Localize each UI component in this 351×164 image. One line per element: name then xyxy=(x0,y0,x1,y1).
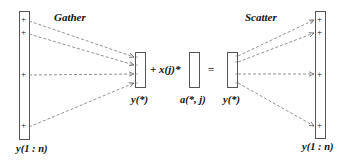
plus-marker: + xyxy=(21,28,26,37)
diagram-graphics xyxy=(0,0,351,164)
gather-arrows xyxy=(29,21,134,127)
gather-scatter-diagram: + + + + + + + + Gather Scatter + x(j)* =… xyxy=(0,0,351,164)
scatter-title: Scatter xyxy=(245,12,277,23)
result-label: y(*) xyxy=(223,95,240,106)
plus-marker: + xyxy=(317,28,322,37)
result-box xyxy=(228,53,238,88)
plus-marker: + xyxy=(317,15,322,24)
right-vector-label: y(1 : n) xyxy=(302,142,334,153)
gather-title: Gather xyxy=(54,12,86,23)
column-label: a(*, j) xyxy=(180,95,206,106)
plus-marker: + xyxy=(317,121,322,130)
gathered-label: y(*) xyxy=(131,95,148,106)
plus-marker: + xyxy=(21,121,26,130)
equals-operator: = xyxy=(208,64,214,75)
plus-x-j-operator: + x(j)* xyxy=(150,64,180,75)
column-box xyxy=(190,53,200,88)
gathered-box xyxy=(136,53,146,88)
plus-marker: + xyxy=(317,70,322,79)
left-vector-label: y(1 : n) xyxy=(16,144,48,155)
plus-marker: + xyxy=(21,15,26,24)
scatter-arrows xyxy=(238,20,314,126)
plus-marker: + xyxy=(21,70,26,79)
